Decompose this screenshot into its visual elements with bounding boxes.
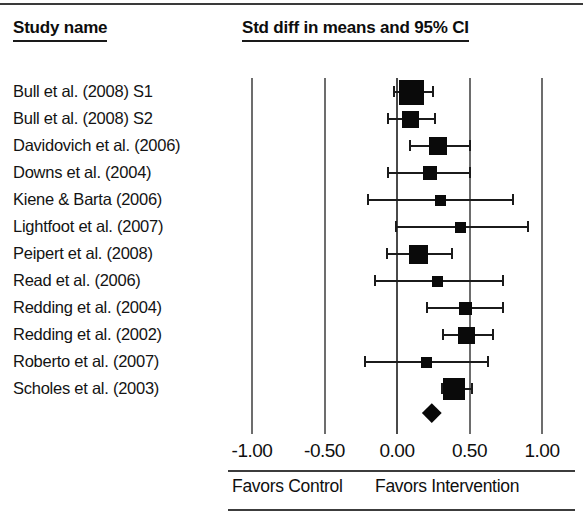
ci-lower-cap [387,167,389,178]
forest-row [0,267,583,294]
ci-lower-cap [409,140,411,151]
ci-upper-cap [469,140,471,151]
ci-upper-cap [487,356,489,367]
effect-size-marker [432,276,443,287]
ci-lower-cap [387,113,389,124]
forest-row [0,78,583,105]
summary-diamond [422,403,441,422]
effect-size-marker [459,302,472,315]
forest-row [0,375,583,402]
effect-size-marker [409,245,428,264]
forest-row [0,186,583,213]
forest-plot: Study name Std diff in means and 95% CI … [0,0,583,522]
axis-tick-label: 1.00 [525,440,560,462]
effect-size-marker [443,378,465,400]
effect-size-marker [435,195,446,206]
axis-tick-label: -0.50 [304,440,345,462]
ci-lower-cap [426,302,428,313]
axis-tick-label: 0.50 [452,440,487,462]
forest-row [0,213,583,240]
effect-size-marker [421,357,432,368]
ci-lower-cap [395,221,397,232]
effect-size-marker [455,222,466,233]
ci-upper-cap [471,383,473,394]
ci-lower-cap [374,275,376,286]
effect-size-marker [423,166,437,180]
forest-row [0,240,583,267]
forest-row [0,159,583,186]
ci-upper-cap [492,329,494,340]
favors-intervention-label: Favors Intervention [375,476,519,497]
ci-upper-cap [451,248,453,259]
forest-row [0,348,583,375]
ci-upper-cap [502,302,504,313]
ci-lower-cap [364,356,366,367]
ci-lower-cap [442,329,444,340]
effect-size-marker [399,80,424,105]
ci-upper-cap [434,113,436,124]
axis-tick-label: -1.00 [232,440,273,462]
ci-lower-cap [386,248,388,259]
ci-upper-cap [502,275,504,286]
forest-row [0,294,583,321]
ci-upper-cap [432,86,434,97]
favors-control-label: Favors Control [232,476,343,497]
ci-upper-cap [527,221,529,232]
axis-tick-label: 0.00 [380,440,415,462]
ci-upper-cap [469,167,471,178]
effect-size-marker [458,327,475,344]
axis-divider-upper [228,470,575,472]
ci-upper-cap [512,194,514,205]
effect-size-marker [402,111,419,128]
axis-divider-lower [228,509,575,511]
forest-row [0,321,583,348]
forest-row [0,132,583,159]
forest-row [0,105,583,132]
ci-lower-cap [393,86,395,97]
effect-size-marker [429,137,447,155]
ci-lower-cap [367,194,369,205]
plot-area [0,0,583,460]
